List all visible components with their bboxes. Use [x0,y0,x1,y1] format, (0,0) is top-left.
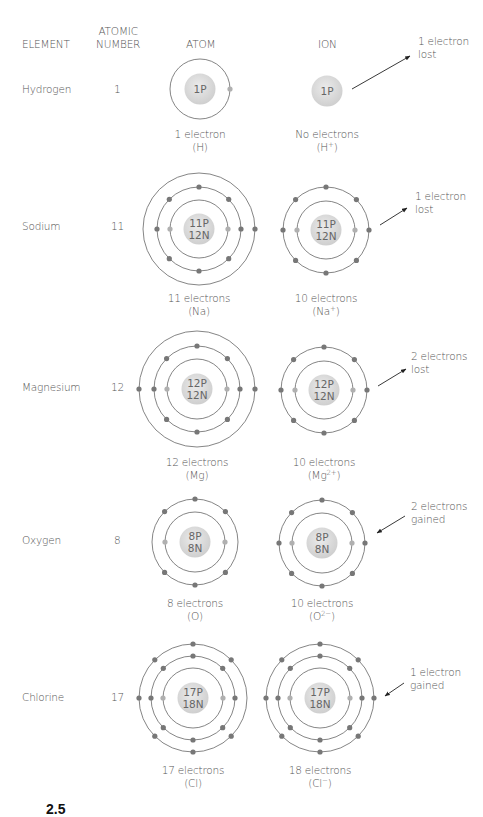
note-magnesium: 2 electronslost [411,350,467,376]
symbol: (H) [145,141,255,154]
electron [350,510,355,515]
nucleus-label: 17P [183,686,203,698]
electron [192,582,197,587]
electron [162,539,167,544]
electron [289,510,294,515]
electron [294,227,299,232]
symbol: (Mg2+) [269,469,379,482]
arrow-icon [377,516,405,533]
note-line1: 2 electrons [411,500,467,513]
nucleus-label: 8N [315,543,330,555]
atom-hydrogen-caption: 1 electron(H) [145,128,255,154]
nucleus-label: 8N [188,542,203,554]
electron [220,725,225,730]
symbol-end: ) [336,305,340,317]
nucleus-label: 12P [314,378,334,390]
note-line2: gained [410,679,461,692]
electron [287,695,292,700]
ion-sodium: 11P12N [280,184,371,275]
electron [319,583,324,588]
electron [293,258,298,263]
electron [350,387,355,392]
electron [152,657,157,662]
header-atomic-number-line2: NUMBER [96,38,140,51]
nucleus-label: 18N [309,698,330,710]
electron [350,571,355,576]
ion-hydrogen-caption: No electrons(H+) [272,128,382,154]
electron [263,695,268,700]
electron [224,386,229,391]
electron [371,695,376,700]
atomic-number-hydrogen: 1 [114,83,120,96]
electron [317,653,322,658]
electron [226,197,231,202]
element-name-sodium: Sodium [22,220,60,233]
electron-count: 8 electrons [140,597,250,610]
electron [279,734,284,739]
atom-chlorine-caption: 17 electrons(Cl) [138,764,248,790]
electron [349,540,354,545]
symbol-base: (Na) [188,305,210,317]
electron [190,653,195,658]
electron [317,737,322,742]
electron [192,496,197,501]
electron [194,429,199,434]
arrow-icon [380,208,407,225]
electron-count: 10 electrons [269,456,379,469]
ion-sodium-caption: 10 electrons(Na+) [271,292,381,318]
electron [152,734,157,739]
electron-count: 17 electrons [138,764,248,777]
atomic-number-chlorine: 17 [111,691,124,704]
electron [220,666,225,671]
electron [237,386,242,391]
electron-count: 10 electrons [267,597,377,610]
electron [252,386,257,391]
electron [289,540,294,545]
symbol-base: (H) [192,141,208,153]
ion-magnesium: 12P12N [278,344,369,435]
electron-count: 11 electrons [144,292,254,305]
electron [280,227,285,232]
electron [148,695,153,700]
electron [136,386,141,391]
electron [293,197,298,202]
electron [167,226,172,231]
electron [352,227,357,232]
nucleus-label: 8P [188,530,201,542]
nucleus-label: 1P [193,83,206,95]
electron [352,357,357,362]
electron-count: 1 electron [145,128,255,141]
nucleus-label: 11P [189,217,209,229]
electron [354,197,359,202]
nucleus-label: 11P [316,218,336,230]
symbol: (Na) [144,305,254,318]
symbol-base: (Na [312,305,330,317]
symbol-end: ) [328,777,332,789]
electron [190,641,195,646]
electron [288,725,293,730]
note-line2: gained [411,513,467,526]
electron [288,666,293,671]
element-name-magnesium: Magnesium [22,381,80,394]
charge-superscript: 2+ [327,469,337,477]
figure-number: 2.5 [46,801,65,817]
symbol: (O2−) [267,610,377,623]
electron-count: 10 electrons [271,292,381,305]
note-line1: 2 electrons [411,350,467,363]
symbol: (O) [140,610,250,623]
note-line1: 1 electron [410,666,461,679]
symbol: (Cl) [138,777,248,790]
electron [352,418,357,423]
symbol-base: (Mg) [186,469,209,481]
electron [223,509,228,514]
electron [190,749,195,754]
note-line1: 1 electron [415,190,466,203]
electron [227,86,232,91]
electron [220,695,225,700]
electron [162,509,167,514]
ion-hydrogen: 1P [312,76,343,107]
symbol-base: (H [316,141,328,153]
atomic-number-oxygen: 8 [114,534,120,547]
ion-oxygen-caption: 10 electrons(O2−) [267,597,377,623]
element-name-chlorine: Chlorine [22,691,64,704]
